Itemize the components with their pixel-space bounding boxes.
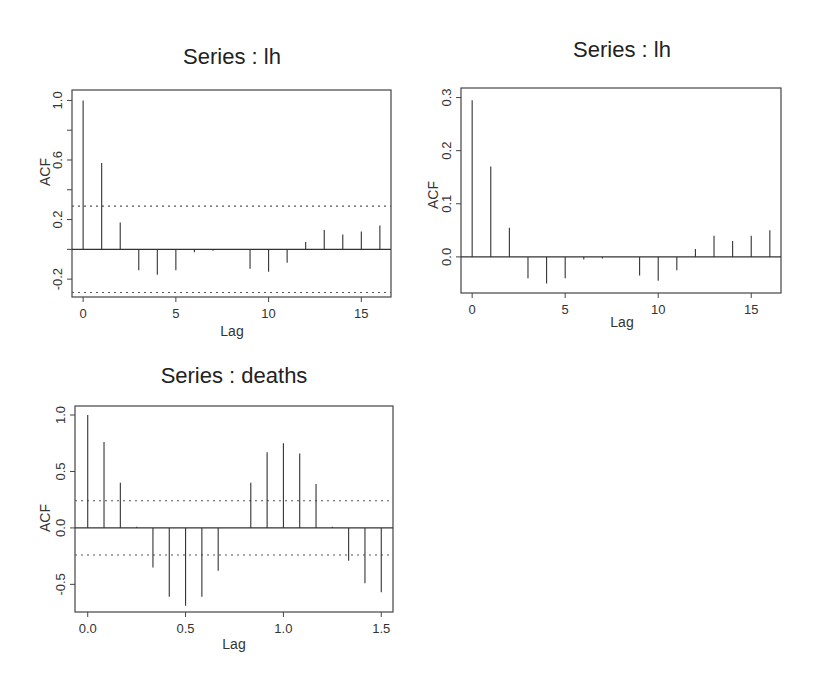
plot-frame xyxy=(461,88,781,293)
x-tick-label: 1.0 xyxy=(274,621,292,636)
y-tick-label: 1.0 xyxy=(53,406,68,424)
acf-deaths-panel: Series : deaths 0.00.51.01.5-0.50.00.51.… xyxy=(0,0,410,686)
x-tick-label: 5 xyxy=(562,302,569,317)
x-tick-label: 15 xyxy=(744,302,758,317)
plot-area: 0510150.00.10.20.3 xyxy=(439,88,781,317)
y-axis-label: ACF xyxy=(37,504,53,532)
acf-deaths-chart: Series : deaths 0.00.51.01.5-0.50.00.51.… xyxy=(0,0,410,686)
y-tick-label: -0.5 xyxy=(53,573,68,595)
x-tick-label: 0 xyxy=(469,302,476,317)
y-tick-label: 0.0 xyxy=(439,248,454,266)
x-tick-label: 0.0 xyxy=(79,621,97,636)
x-axis-label: Lag xyxy=(222,636,245,652)
y-axis-label: ACF xyxy=(425,181,441,209)
y-tick-label: 0.3 xyxy=(439,89,454,107)
y-tick-label: 0.0 xyxy=(53,519,68,537)
y-tick-label: 0.5 xyxy=(53,462,68,480)
y-tick-label: 0.1 xyxy=(439,195,454,213)
plot-area: 0.00.51.01.5-0.50.00.51.0 xyxy=(53,406,393,636)
chart-title: Series : lh xyxy=(573,37,671,62)
x-tick-label: 10 xyxy=(651,302,665,317)
x-tick-label: 0.5 xyxy=(177,621,195,636)
chart-title: Series : deaths xyxy=(161,363,308,388)
x-axis-label: Lag xyxy=(610,314,633,330)
plot-frame xyxy=(75,406,393,612)
x-tick-label: 1.5 xyxy=(372,621,390,636)
y-tick-label: 0.2 xyxy=(439,142,454,160)
